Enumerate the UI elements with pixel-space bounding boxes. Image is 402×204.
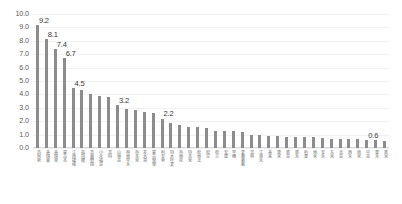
y-axis-tick: 10.0: [15, 10, 29, 17]
bar[interactable]: [330, 139, 333, 148]
bar[interactable]: [383, 141, 386, 148]
x-axis-tick-label: 高面野国: [89, 150, 93, 166]
bar[interactable]: [89, 94, 92, 148]
bar-value-label: 3.2: [119, 97, 129, 105]
bar-fill: [143, 112, 146, 148]
bar[interactable]: [125, 109, 128, 148]
bar-value-label: 2.2: [164, 110, 174, 118]
bar[interactable]: [223, 131, 226, 148]
bar[interactable]: [339, 139, 342, 148]
bar[interactable]: [98, 96, 101, 148]
bar[interactable]: [134, 110, 137, 148]
bar-fill: [276, 136, 279, 148]
bar-fill: [107, 97, 110, 148]
bar-fill: [267, 136, 270, 148]
bar[interactable]: [107, 97, 110, 148]
x-axis-tick-label: 美国单: [53, 150, 57, 162]
bar-fill: [89, 94, 92, 148]
x-axis-tick-label: 林地早禾: [124, 150, 128, 166]
x-axis-tick-label: 利果: [302, 150, 306, 158]
x-axis-tick-label: 松地法: [195, 150, 199, 162]
bar[interactable]: [303, 137, 306, 148]
bar-fill: [178, 125, 181, 148]
bar[interactable]: [267, 136, 270, 148]
bar-value-label: 9.2: [39, 17, 49, 25]
bar-value-label: 6.7: [66, 50, 76, 58]
bar[interactable]: [116, 105, 119, 148]
bar-fill: [339, 139, 342, 148]
bar[interactable]: [321, 138, 324, 148]
x-axis-tick-label: 松甘: [204, 150, 208, 158]
x-axis-tick-label: 安建: [222, 150, 226, 158]
bar[interactable]: [258, 135, 261, 148]
x-axis-tick-label: 指特稷: [80, 150, 84, 162]
bar[interactable]: [276, 136, 279, 148]
x-axis-tick-label: 新米: [382, 150, 386, 158]
x-axis-tick-label: 山地苗: [115, 150, 119, 162]
x-axis-tick-label: 美来: [267, 150, 271, 158]
bar-value-label: 0.6: [368, 132, 378, 140]
bar-fill: [347, 139, 350, 148]
y-axis-tick: 3.0: [19, 104, 29, 111]
bar-fill: [214, 131, 217, 148]
bar-value-label: 8.1: [48, 31, 58, 39]
bar[interactable]: [250, 135, 253, 148]
bar[interactable]: [312, 137, 315, 148]
bar[interactable]: [241, 132, 244, 148]
bar[interactable]: [187, 127, 190, 148]
bar-fill: [45, 39, 48, 148]
y-axis: 10.09.08.07.06.05.04.03.02.01.00.0: [0, 0, 33, 152]
bar[interactable]: [205, 128, 208, 148]
bar[interactable]: [169, 123, 172, 148]
bar[interactable]: [80, 90, 83, 148]
bar-fill: [312, 137, 315, 148]
bar-fill: [285, 137, 288, 148]
bar-fill: [250, 135, 253, 148]
bar[interactable]: [232, 131, 235, 148]
bar[interactable]: [356, 139, 359, 148]
x-axis-tick-label: 东米: [329, 150, 333, 158]
x-axis-tick-label: 西禾: [347, 150, 351, 158]
bar[interactable]: [214, 131, 217, 148]
bar[interactable]: [196, 127, 199, 148]
x-axis-tick-label: 中苗: [365, 150, 369, 158]
x-axis-tick-label: 北苗: [338, 150, 342, 158]
x-axis-tick-label: 美国莱: [44, 150, 48, 162]
bar-fill: [152, 113, 155, 148]
gridline: [33, 148, 389, 149]
x-axis-tick-label: 蒙古本: [62, 150, 66, 162]
bar-fill: [258, 135, 261, 148]
bar[interactable]: [72, 88, 75, 148]
x-axis-tick-label: 果禾: [373, 150, 377, 158]
x-axis-tick-label: 果米: [276, 150, 280, 158]
bar[interactable]: [63, 58, 66, 148]
x-axis-tick-label: 安禾: [320, 150, 324, 158]
x-axis-tick-label: 南米: [356, 150, 360, 158]
bar[interactable]: [347, 139, 350, 148]
x-axis-tick-label: 地米: [311, 150, 315, 158]
x-axis-tick-label: 滨林: [249, 150, 253, 158]
bar-fill: [196, 127, 199, 148]
x-axis-tick-label: 新苗: [284, 150, 288, 158]
bar[interactable]: [161, 119, 164, 148]
x-axis-tick-label: 特大叶麦: [169, 150, 173, 166]
x-axis-tick-label: 发大哥: [142, 150, 146, 162]
x-axis-tick-label: 高科: [106, 150, 110, 158]
bar[interactable]: [178, 125, 181, 148]
bar[interactable]: [143, 112, 146, 148]
bar[interactable]: [294, 137, 297, 148]
bar-chart: 10.09.08.07.06.05.04.03.02.01.00.0 9.28.…: [0, 0, 402, 204]
bar[interactable]: [365, 140, 368, 148]
bar[interactable]: [54, 49, 57, 148]
bar[interactable]: [374, 140, 377, 148]
bar[interactable]: [152, 113, 155, 148]
y-axis-tick: 4.0: [19, 91, 29, 98]
bar-fill: [125, 109, 128, 148]
bar-fill: [205, 128, 208, 148]
bar-fill: [134, 110, 137, 148]
x-axis-tick-label: 早穗: [231, 150, 235, 158]
x-axis-tick-label: 热地花: [178, 150, 182, 162]
bar[interactable]: [45, 39, 48, 148]
bar[interactable]: [36, 25, 39, 148]
bar[interactable]: [285, 137, 288, 148]
